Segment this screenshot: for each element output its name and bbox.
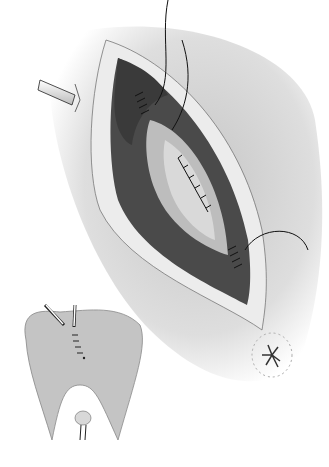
surgical-illustration xyxy=(0,0,329,467)
inset-buttocks xyxy=(25,305,143,440)
